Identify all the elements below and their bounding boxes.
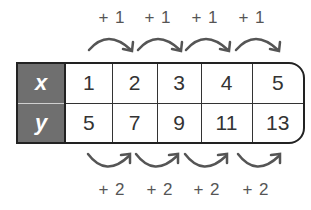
top-diff-label-1: + 1 xyxy=(98,8,125,28)
top-arrow-4-icon xyxy=(236,39,280,51)
bottom-diff-label-3: + 2 xyxy=(193,180,220,200)
table-cell: 5 xyxy=(65,103,112,142)
table-cell: 5 xyxy=(252,64,303,103)
bottom-diff-label-2: + 2 xyxy=(146,180,173,200)
bottom-arrow-3-icon xyxy=(185,154,227,167)
bottom-diff-label-4: + 2 xyxy=(242,180,269,200)
function-table: x 1 2 3 4 5 y 5 7 9 11 13 xyxy=(16,62,305,144)
table-cell: 7 xyxy=(112,103,157,142)
table-cell: 2 xyxy=(112,64,157,103)
table-cell: 3 xyxy=(157,64,201,103)
table-row-x: x 1 2 3 4 5 xyxy=(18,64,303,103)
top-arrows xyxy=(0,30,311,58)
bottom-difference-labels: + 2 + 2 + 2 + 2 xyxy=(0,180,311,202)
table-cell: 1 xyxy=(65,64,112,103)
row-header-y: y xyxy=(18,103,65,142)
top-diff-label-3: + 1 xyxy=(191,8,218,28)
table-row-y: y 5 7 9 11 13 xyxy=(18,103,303,142)
table-cell: 9 xyxy=(157,103,201,142)
top-arrow-2-icon xyxy=(138,39,182,51)
bottom-arrow-1-icon xyxy=(88,154,130,167)
table-cell: 4 xyxy=(201,64,252,103)
table-cell: 11 xyxy=(201,103,252,142)
bottom-arrow-2-icon xyxy=(136,154,178,167)
top-arrow-1-icon xyxy=(89,39,133,51)
bottom-arrows xyxy=(0,150,311,176)
bottom-diff-label-1: + 2 xyxy=(98,180,125,200)
table-cell: 13 xyxy=(252,103,303,142)
top-difference-labels: + 1 + 1 + 1 + 1 xyxy=(0,8,311,30)
bottom-arrow-4-icon xyxy=(238,154,280,167)
top-arrow-3-icon xyxy=(186,39,230,51)
top-diff-label-2: + 1 xyxy=(144,8,171,28)
top-diff-label-4: + 1 xyxy=(238,8,265,28)
row-header-x: x xyxy=(18,64,65,103)
